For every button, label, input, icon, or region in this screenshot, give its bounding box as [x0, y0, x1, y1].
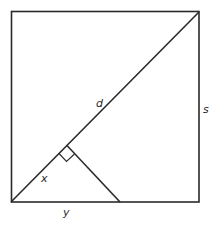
right-angle-marker — [59, 154, 75, 162]
label-x: x — [40, 172, 48, 185]
diagonal-line — [11, 12, 199, 202]
perpendicular-line — [67, 146, 120, 203]
label-s: s — [203, 103, 209, 116]
label-y: y — [62, 206, 70, 219]
geometry-diagram: d s x y — [0, 0, 219, 227]
label-d: d — [96, 97, 104, 110]
